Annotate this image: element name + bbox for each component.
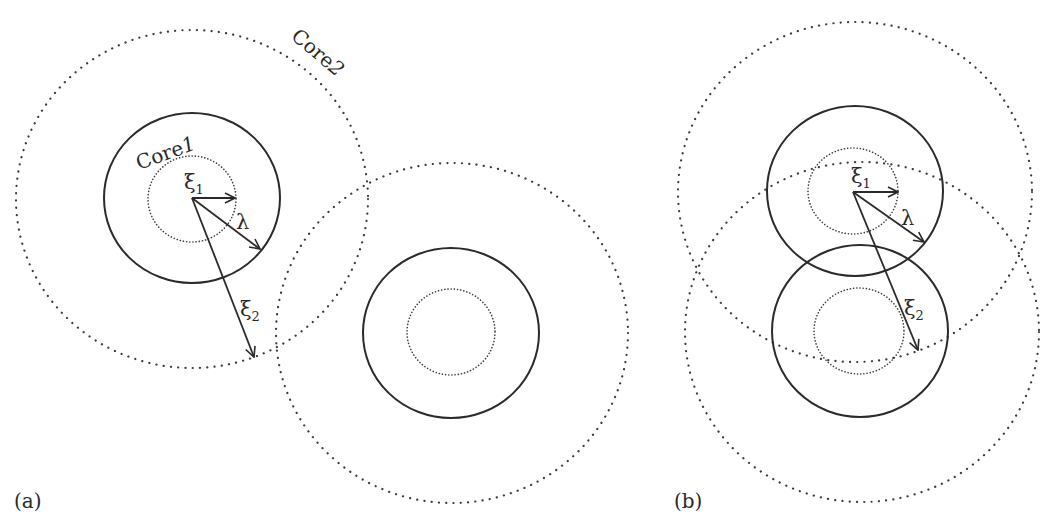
lambda-circle (772, 245, 948, 417)
inner-core-xi1-circle (814, 288, 904, 374)
xi1-label: ξ1 (184, 170, 204, 197)
panel-b-label: (b) (674, 489, 702, 513)
panel-b: ξ1 λ ξ2 (b) (674, 22, 1039, 513)
xi1-label: ξ1 (851, 164, 871, 191)
lambda-label: λ (236, 210, 249, 234)
core1-label: Core1 (133, 131, 199, 175)
lambda-circle (767, 106, 943, 276)
xi2-label: ξ2 (240, 297, 260, 324)
vortex-a2 (276, 163, 628, 503)
panel-a-label: (a) (14, 489, 42, 513)
vortex-a1: ξ1 λ ξ2 Core1 Core2 (16, 23, 368, 368)
lambda-circle (363, 248, 539, 418)
core2-label: Core2 (287, 23, 350, 81)
lambda-label: λ (901, 206, 914, 230)
inner-core-xi1-circle (407, 289, 495, 375)
xi2-label: ξ2 (904, 296, 924, 323)
inner-core-xi1-circle (808, 148, 898, 234)
vortex-core-diagram: ξ1 λ ξ2 Core1 Core2 (a) (0, 0, 1055, 528)
panel-a: ξ1 λ ξ2 Core1 Core2 (a) (14, 23, 628, 513)
outer-core-xi2-circle (276, 163, 628, 503)
